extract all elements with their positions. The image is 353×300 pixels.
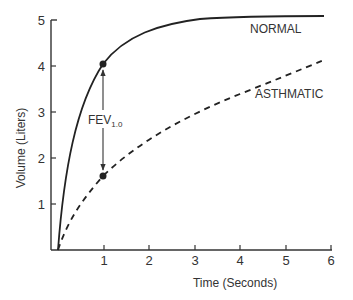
- x-axis-title: Time (Seconds): [193, 276, 277, 290]
- normal-fev-marker: [100, 61, 107, 68]
- x-tick-4: 4: [236, 253, 243, 268]
- y-axis: [51, 20, 57, 250]
- normal-label: NORMAL: [250, 22, 302, 36]
- y-tick-3: 3: [38, 105, 45, 120]
- y-tick-1: 1: [38, 197, 45, 212]
- y-tick-4: 4: [38, 59, 45, 74]
- fev-chart: 5 4 3 2 1 1 2 3 4 5 6 Time (Seconds) Vol…: [0, 0, 353, 300]
- y-tick-5: 5: [38, 13, 45, 28]
- x-tick-3: 3: [191, 253, 198, 268]
- normal-curve: [58, 16, 324, 250]
- y-axis-title: Volume (Liters): [14, 108, 28, 189]
- x-tick-1: 1: [100, 253, 107, 268]
- x-tick-2: 2: [145, 253, 152, 268]
- y-tick-2: 2: [38, 151, 45, 166]
- asthmatic-label: ASTHMATIC: [255, 87, 324, 101]
- asthmatic-fev-marker: [100, 173, 107, 180]
- x-tick-6: 6: [327, 253, 334, 268]
- x-tick-5: 5: [282, 253, 289, 268]
- x-axis: [51, 245, 332, 250]
